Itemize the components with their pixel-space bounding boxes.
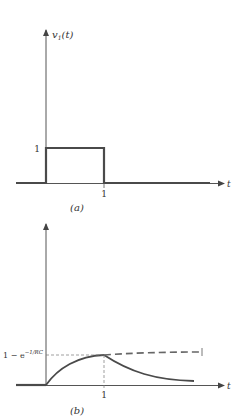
figure: v1(t) t 1 1 (a) t 1 − e−1/RC 1 (b) <box>0 0 242 418</box>
x-tick-1-a: 1 <box>101 189 107 199</box>
y-axis-label-a: v1(t) <box>52 29 73 41</box>
x-axis-label-b: t <box>227 381 231 391</box>
panel-a: v1(t) t 1 1 (a) <box>16 29 231 213</box>
panel-label-a: (a) <box>70 202 84 213</box>
charging-curve <box>46 355 104 385</box>
dashed-continuation <box>104 352 201 355</box>
panel-b: t 1 − e−1/RC 1 (b) <box>3 224 231 416</box>
y-tick-1-a: 1 <box>34 144 40 154</box>
x-axis-label-a: t <box>227 179 231 189</box>
pulse-curve <box>16 148 210 183</box>
panel-label-b: (b) <box>70 405 84 416</box>
discharging-curve <box>104 355 194 381</box>
x-tick-1-b: 1 <box>101 390 107 400</box>
y-tick-label-b: 1 − e−1/RC <box>3 349 44 360</box>
